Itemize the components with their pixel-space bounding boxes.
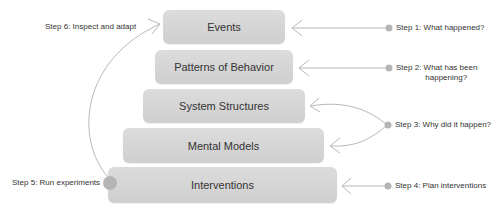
level-events-label: Events [207,21,241,33]
step2-label-line1: Step 2: What has been [396,63,477,73]
level-system-structures: System Structures [143,89,305,123]
level-mental-models: Mental Models [123,128,324,163]
level-mental-models-label: Mental Models [188,140,260,152]
step4-label: Step 4: Plan interventions [395,181,486,191]
level-system-structures-label: System Structures [179,100,269,112]
step3-arrowhead-down-icon [330,138,340,153]
level-patterns-label: Patterns of Behavior [174,61,274,73]
level-interventions: Interventions [108,167,337,203]
level-patterns-of-behavior: Patterns of Behavior [155,50,293,84]
step5-label: Step 5: Run experiments [12,178,100,188]
step2-label-line2: happening? [396,73,477,83]
step3-connector-down [331,125,387,146]
step3-dot-icon [385,122,392,129]
step2-dot-icon [386,65,393,72]
step1-dot-icon [386,25,393,32]
step3-label: Step 3: Why did it happen? [395,120,491,130]
step3-connector-up [311,104,387,125]
step1-label: Step 1: What happened? [396,23,485,33]
step6-label: Step 6: Inspect and adapt [45,22,136,32]
step4-dot-icon [385,183,392,190]
level-events: Events [163,10,285,44]
level-interventions-label: Interventions [191,179,254,191]
step2-label: Step 2: What has been happening? [396,63,477,83]
